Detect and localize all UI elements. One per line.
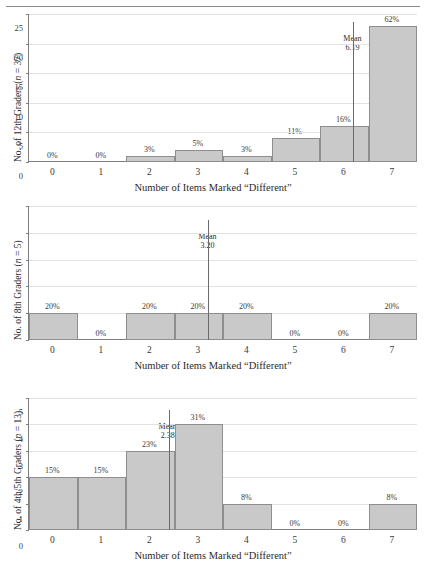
histogram-bar: [223, 504, 272, 530]
histogram-bar: [175, 150, 224, 162]
x-tick-label: 5: [280, 536, 310, 546]
gridline: [29, 14, 417, 15]
plot-area: [28, 14, 416, 162]
x-tick-label: 7: [377, 346, 407, 356]
x-tick-label: 6: [328, 168, 358, 178]
y-tick-label: 0: [1, 172, 23, 181]
gridline: [29, 103, 417, 104]
x-tick-label: 5: [280, 346, 310, 356]
y-tick-mark: [26, 73, 29, 74]
histogram-bar: [175, 313, 224, 340]
x-axis-title: Number of Items Marked “Different”: [0, 360, 426, 371]
x-tick-label: 0: [37, 168, 67, 178]
y-tick-mark: [26, 260, 29, 261]
x-tick-label: 4: [231, 168, 261, 178]
y-tick-mark: [26, 233, 29, 234]
y-tick-mark: [26, 286, 29, 287]
y-tick-label: 5: [1, 142, 23, 151]
histogram-bar: [223, 156, 272, 162]
gridline: [29, 73, 417, 74]
histogram-bar: [223, 313, 272, 340]
y-tick-mark: [26, 340, 29, 341]
y-tick-mark: [26, 206, 29, 207]
histogram-panel-grade-12: No. of 12th Graders (n = 37)05101520250%…: [0, 14, 426, 206]
gridline: [29, 260, 417, 261]
gridline: [29, 398, 417, 399]
gridline: [29, 424, 417, 425]
x-tick-label: 7: [377, 536, 407, 546]
figure-page: No. of 12th Graders (n = 37)05101520250%…: [0, 0, 426, 574]
x-tick-label: 0: [37, 346, 67, 356]
y-tick-label: 10: [1, 113, 23, 122]
x-tick-label: 3: [183, 346, 213, 356]
gridline: [29, 451, 417, 452]
plot-area: [28, 398, 416, 530]
y-tick-mark: [26, 162, 29, 163]
y-tick-mark: [26, 132, 29, 133]
x-tick-label: 6: [328, 536, 358, 546]
x-tick-label: 3: [183, 168, 213, 178]
x-tick-label: 2: [134, 346, 164, 356]
y-axis-title: No. of 4th/5th Graders (n = 13): [13, 411, 23, 530]
histogram-bar: [369, 504, 418, 530]
x-tick-label: 1: [86, 346, 116, 356]
y-tick-mark: [26, 398, 29, 399]
x-tick-label: 1: [86, 168, 116, 178]
histogram-bar: [29, 477, 78, 530]
mean-line: [169, 410, 170, 530]
y-tick-mark: [26, 451, 29, 452]
x-tick-label: 6: [328, 346, 358, 356]
plot-area: [28, 206, 416, 340]
x-tick-label: 4: [231, 346, 261, 356]
histogram-bar: [29, 313, 78, 340]
histogram-bar: [369, 313, 418, 340]
y-tick-mark: [26, 530, 29, 531]
y-tick-label: 15: [1, 83, 23, 92]
gridline: [29, 44, 417, 45]
histogram-bar: [272, 138, 321, 162]
histogram-bar: [369, 26, 418, 162]
x-tick-label: 7: [377, 168, 407, 178]
x-tick-label: 2: [134, 536, 164, 546]
histogram-panel-grade-8: No. of 8th Graders (n = 5)01234520%00%12…: [0, 206, 426, 384]
gridline: [29, 206, 417, 207]
x-tick-label: 1: [86, 536, 116, 546]
histogram-bar: [126, 156, 175, 162]
histogram-bar: [78, 477, 127, 530]
histogram-bar: [320, 126, 369, 162]
mean-line: [208, 220, 209, 340]
mean-line: [353, 22, 354, 162]
y-tick-mark: [26, 14, 29, 15]
x-tick-label: 3: [183, 536, 213, 546]
x-tick-label: 2: [134, 168, 164, 178]
x-tick-label: 0: [37, 536, 67, 546]
y-axis-title: No. of 8th Graders (n = 5): [13, 240, 23, 340]
x-axis-title: Number of Items Marked “Different”: [0, 550, 426, 561]
gridline: [29, 286, 417, 287]
y-tick-mark: [26, 103, 29, 104]
y-tick-label: 20: [1, 54, 23, 63]
gridline: [29, 233, 417, 234]
y-tick-mark: [26, 424, 29, 425]
histogram-panel-grade-4-5: No. of 4th/5th Graders (n = 13)01234515%…: [0, 398, 426, 574]
histogram-bar: [175, 424, 224, 530]
y-tick-label: 25: [1, 24, 23, 33]
x-tick-label: 5: [280, 168, 310, 178]
x-tick-label: 4: [231, 536, 261, 546]
histogram-bar: [126, 313, 175, 340]
header-rule: [6, 6, 420, 7]
x-axis-title: Number of Items Marked “Different”: [0, 182, 426, 193]
histogram-bar: [126, 451, 175, 530]
y-tick-mark: [26, 44, 29, 45]
